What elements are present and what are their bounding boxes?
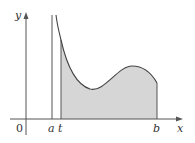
x-axis-label: x xyxy=(177,122,184,135)
t-label: t xyxy=(58,122,63,135)
y-axis-arrow-icon xyxy=(24,12,29,19)
figure: y x 0 a t b xyxy=(0,0,195,143)
y-axis-label: y xyxy=(14,9,22,22)
a-label: a xyxy=(48,122,55,135)
diagram-svg: y x 0 a t b xyxy=(0,0,195,143)
origin-label: 0 xyxy=(16,122,23,135)
x-axis-arrow-icon xyxy=(176,117,183,122)
b-label: b xyxy=(153,122,160,135)
shaded-region xyxy=(61,40,157,119)
